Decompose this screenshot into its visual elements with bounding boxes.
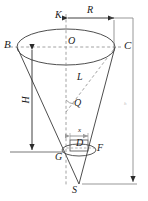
label-k: K: [55, 10, 62, 20]
label-x: x: [78, 127, 81, 134]
cone-geometry-figure: K R B O C H L Q x D G F S h: [0, 0, 148, 201]
label-r: R: [87, 5, 93, 15]
label-l: L: [77, 72, 83, 82]
label-g: G: [55, 152, 62, 162]
cone-left-slant: [17, 47, 79, 184]
label-o: O: [68, 36, 75, 46]
label-h: H: [21, 96, 31, 103]
label-d: D: [76, 138, 83, 148]
label-q: Q: [74, 98, 81, 108]
label-c: C: [124, 40, 131, 51]
label-right-height: h: [124, 101, 127, 106]
label-s: S: [72, 185, 77, 195]
label-f: F: [97, 143, 103, 153]
cone-right-slant: [79, 47, 115, 184]
label-b: B: [4, 39, 11, 50]
